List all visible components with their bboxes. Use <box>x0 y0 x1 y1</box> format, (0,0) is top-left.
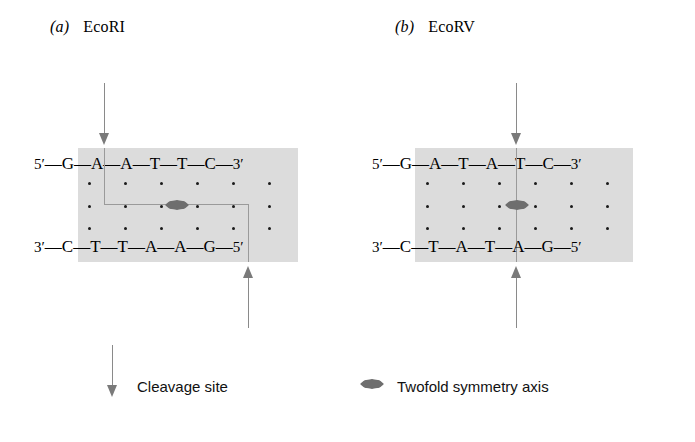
base-a-bot-6: G <box>203 237 215 256</box>
bottom-strand-a-5prime: 5′ <box>233 239 244 255</box>
hbond-dots-b-6 <box>602 182 612 230</box>
sep: — <box>186 237 203 256</box>
sep: — <box>128 237 145 256</box>
bottom-strand-b: 3′—C—T—A—T—A—G—5′ <box>372 238 582 255</box>
cleavage-arrow-a-bottom <box>243 266 254 328</box>
sep: — <box>383 237 400 256</box>
sep: — <box>554 237 571 256</box>
sep: — <box>554 154 571 173</box>
hbond-dots-b-1 <box>422 182 432 230</box>
panel-b-enzyme-name: EcoRV <box>428 18 475 35</box>
hbond-dots-a-3 <box>156 182 166 230</box>
base-b-top-1: G <box>400 154 412 173</box>
hbond-dots-a-2 <box>120 182 130 230</box>
hbond-dots-b-2 <box>458 182 468 230</box>
sep: — <box>216 154 233 173</box>
bottom-strand-b-5prime: 5′ <box>571 239 582 255</box>
base-b-top-2: A <box>429 154 441 173</box>
bottom-strand-b-3prime: 3′ <box>372 239 383 255</box>
top-strand-b-3prime: 3′ <box>571 156 582 172</box>
sep: — <box>441 154 458 173</box>
base-a-top-6: C <box>204 154 215 173</box>
base-a-bot-5: A <box>174 237 186 256</box>
sep: — <box>160 154 177 173</box>
panel-b-index: (b) <box>395 18 414 35</box>
sep: — <box>74 154 91 173</box>
top-strand-b: 5′—G—A—T—A—T—C—3′ <box>372 155 582 172</box>
hbond-dots-b-4 <box>530 182 540 230</box>
sep: — <box>73 237 90 256</box>
base-b-bot-1: C <box>400 237 411 256</box>
sep: — <box>187 154 204 173</box>
hbond-dots-b-3 <box>494 182 504 230</box>
sep: — <box>157 237 174 256</box>
sep: — <box>133 154 150 173</box>
base-a-top-2: A <box>91 154 103 173</box>
sep: — <box>103 154 120 173</box>
top-strand-a-3prime: 3′ <box>233 156 244 172</box>
base-b-bot-4: T <box>485 237 495 256</box>
base-b-top-6: C <box>542 154 553 173</box>
sep: — <box>495 237 512 256</box>
sep: — <box>411 237 428 256</box>
sep: — <box>101 237 118 256</box>
base-a-bot-2: T <box>90 237 100 256</box>
base-b-bot-5: A <box>512 237 524 256</box>
cleavage-arrow-b-top <box>511 83 522 145</box>
cleavage-arrow-b-bottom <box>511 266 522 328</box>
sep: — <box>469 154 486 173</box>
bottom-strand-a: 3′—C—T—T—A—A—G—5′ <box>34 238 244 255</box>
base-a-top-3: A <box>120 154 132 173</box>
base-b-bot-3: A <box>456 237 468 256</box>
bottom-strand-a-3prime: 3′ <box>34 239 45 255</box>
top-strand-a-5prime: 5′ <box>34 156 45 172</box>
sep: — <box>498 154 515 173</box>
legend-twofold-symmetry-label: Twofold symmetry axis <box>397 378 549 395</box>
base-b-bot-6: G <box>541 237 553 256</box>
base-b-top-3: T <box>458 154 468 173</box>
cleavage-arrow-a-top <box>99 83 110 145</box>
sep: — <box>45 154 62 173</box>
base-b-bot-2: T <box>428 237 438 256</box>
sep: — <box>439 237 456 256</box>
cut-line-a-top-vertical <box>104 148 105 205</box>
legend-twofold-symmetry-lens-icon <box>360 379 384 389</box>
base-a-top-1: G <box>62 154 74 173</box>
panel-ecori: (a)EcoRI 5′—G—A—A—T—T—C—3′ 3′—C—T—T—A—A—… <box>0 0 347 340</box>
base-a-bot-3: T <box>118 237 128 256</box>
sep: — <box>45 237 62 256</box>
panel-ecorv: (b)EcoRV 5′—G—A—T—A—T—C—3′ 3′—C—T—A—T—A—… <box>347 0 695 340</box>
sep: — <box>383 154 400 173</box>
sep: — <box>468 237 485 256</box>
base-a-bot-1: C <box>62 237 73 256</box>
cut-line-a-bottom-vertical <box>248 204 249 262</box>
top-strand-b-5prime: 5′ <box>372 156 383 172</box>
hbond-dots-a-6 <box>264 182 274 230</box>
base-b-top-4: A <box>486 154 498 173</box>
hbond-dots-b-5 <box>566 182 576 230</box>
hbond-dots-a-5 <box>228 182 238 230</box>
legend-cleavage-arrow-icon <box>107 345 118 397</box>
hbond-dots-a-1 <box>84 182 94 230</box>
sep: — <box>525 154 542 173</box>
base-a-bot-4: A <box>145 237 157 256</box>
sep: — <box>412 154 429 173</box>
base-a-top-4: T <box>150 154 160 173</box>
panel-a-enzyme-name: EcoRI <box>83 18 125 35</box>
hbond-dots-a-4 <box>192 182 202 230</box>
legend-cleavage-site-label: Cleavage site <box>137 378 228 395</box>
top-strand-a: 5′—G—A—A—T—T—C—3′ <box>34 155 244 172</box>
panel-b-caption: (b)EcoRV <box>395 18 475 36</box>
panel-a-index: (a) <box>50 18 69 35</box>
base-a-top-5: T <box>177 154 187 173</box>
panel-a-caption: (a)EcoRI <box>50 18 125 36</box>
sep: — <box>216 237 233 256</box>
sep: — <box>524 237 541 256</box>
